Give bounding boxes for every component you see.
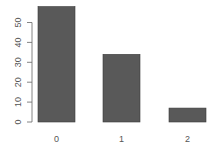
bar-0 xyxy=(38,7,75,122)
y-tick-label: 30 xyxy=(13,57,23,67)
bars xyxy=(38,7,206,122)
y-tick-label: 0 xyxy=(13,119,23,124)
bar-1 xyxy=(103,54,140,122)
y-axis: 01020304050 xyxy=(13,17,32,124)
y-tick-label: 50 xyxy=(13,17,23,27)
bar-2 xyxy=(169,108,206,122)
y-tick-label: 10 xyxy=(13,97,23,107)
bar-chart: 01020304050 012 xyxy=(0,0,218,152)
y-tick-label: 20 xyxy=(13,77,23,87)
y-tick-label: 40 xyxy=(13,37,23,47)
x-axis-labels: 012 xyxy=(54,134,190,144)
x-tick-label: 2 xyxy=(185,134,190,144)
x-tick-label: 0 xyxy=(54,134,59,144)
x-tick-label: 1 xyxy=(119,134,124,144)
